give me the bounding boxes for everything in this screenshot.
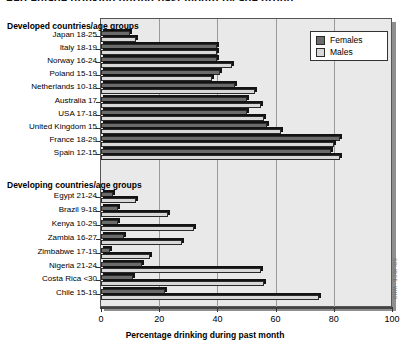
bar-males (101, 240, 182, 245)
bar-males (101, 268, 261, 273)
gridline (276, 19, 277, 307)
category-label: Japan 18-25 (2, 30, 97, 40)
x-tick-label: 60 (261, 314, 291, 324)
legend-swatch-females-icon (316, 36, 325, 45)
legend-label-males: Males (330, 47, 353, 58)
category-label: Australia 17 (2, 96, 97, 106)
category-label: Poland 15-19 (2, 69, 97, 79)
x-tick (101, 307, 102, 312)
category-label: USA 17-18 (2, 109, 97, 119)
x-tick-label: 40 (202, 314, 232, 324)
category-label: Spain 12-15 (2, 148, 97, 158)
x-axis-title: Percentage drinking during past month (0, 330, 410, 340)
category-label: France 18-29 (2, 135, 97, 145)
category-label: Costa Rica <30 (2, 274, 97, 284)
category-label: Zimbabwe 17-19 (2, 247, 97, 257)
bar-males (101, 155, 340, 160)
bar-males (101, 254, 150, 259)
x-tick (334, 307, 335, 312)
category-label: Netherlands 10-18 (2, 82, 97, 92)
x-tick (217, 307, 218, 312)
bar-males (101, 281, 264, 286)
bar-males (101, 212, 168, 217)
category-label: United Kingdom 15 (2, 122, 97, 132)
category-label: Nigeria 21-24 (2, 261, 97, 271)
category-label: Zambia 16-27 (2, 233, 97, 243)
category-label: Norway 16-24 (2, 56, 97, 66)
group-header: Developed countries/age groups (7, 21, 139, 31)
category-labels: Japan 18-25Italy 18-19Norway 16-24Poland… (0, 0, 97, 350)
bar-males (101, 198, 136, 203)
bar-males (101, 295, 319, 300)
legend-label-females: Females (330, 35, 363, 46)
legend: Females Males (310, 31, 388, 61)
x-tick-label: 0 (86, 314, 116, 324)
chart-root: Percentage drinking during past month by… (0, 0, 410, 350)
x-tick (159, 307, 160, 312)
x-tick-label: 80 (319, 314, 349, 324)
gridline (334, 19, 335, 307)
legend-swatch-males-icon (316, 48, 325, 57)
category-label: Chile 15-19 (2, 288, 97, 298)
x-tick (276, 307, 277, 312)
x-tick-label: 100 (377, 314, 407, 324)
category-label: Kenya 10-29 (2, 219, 97, 229)
bar-males (101, 226, 194, 231)
x-axis-line (100, 307, 393, 309)
category-label: Egypt 21-24 (2, 191, 97, 201)
x-tick (392, 307, 393, 312)
source-credit: SOURCE: WHO (392, 258, 398, 300)
group-header: Developing countries/age groups (7, 180, 142, 190)
category-label: Brazil 9-18 (2, 205, 97, 215)
x-tick-label: 20 (144, 314, 174, 324)
category-label: Italy 18-19 (2, 43, 97, 53)
